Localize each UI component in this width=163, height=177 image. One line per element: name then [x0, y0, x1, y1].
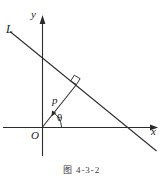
y-axis-label: y	[31, 9, 36, 20]
figure-container: L y x O p θ 图 4-3-2	[0, 0, 163, 177]
y-axis	[40, 15, 46, 156]
figure-caption: 图 4-3-2	[0, 163, 163, 177]
origin-label: O	[31, 130, 39, 141]
x-axis	[3, 125, 158, 131]
line-label-L: L	[6, 23, 13, 35]
line-normal-form-diagram	[0, 0, 163, 177]
x-axis-label: x	[151, 126, 156, 137]
right-angle-marker	[71, 75, 80, 84]
distance-label-p: p	[52, 95, 58, 106]
angle-label-theta: θ	[57, 112, 62, 123]
